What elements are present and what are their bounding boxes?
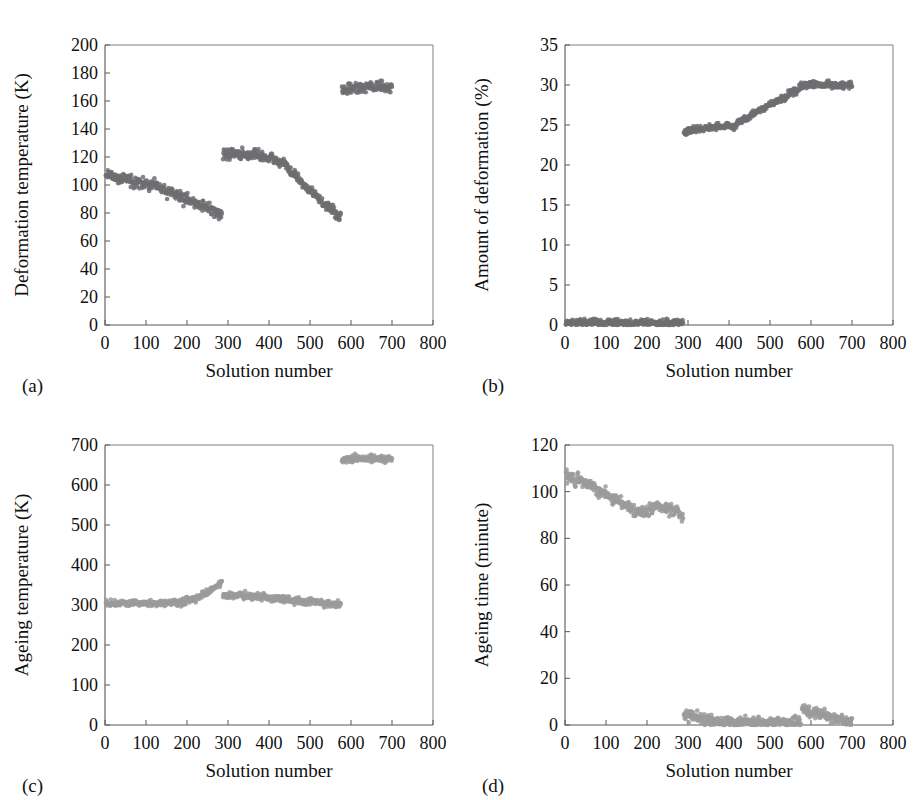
x-axis: 0100200300400500600700800Solution number — [101, 720, 447, 781]
x-tick-label: 600 — [338, 733, 365, 753]
y-tick-label: 0 — [549, 315, 558, 335]
y-tick-label: 40 — [80, 259, 98, 279]
data-series-3 — [340, 79, 395, 96]
y-axis: 020406080100120Ageing time (minute) — [471, 435, 570, 735]
x-tick-label: 200 — [174, 333, 201, 353]
plot-area: 05101520253035Amount of deformation (%)0… — [460, 0, 920, 400]
data-series-1 — [564, 467, 686, 523]
y-tick-label: 200 — [71, 35, 98, 55]
y-tick-label: 40 — [540, 622, 558, 642]
x-tick-label: 600 — [798, 333, 825, 353]
x-tick-label: 700 — [379, 333, 406, 353]
x-axis: 0100200300400500600700800Solution number — [561, 720, 907, 781]
panel-tag: (c) — [22, 775, 43, 797]
data-points — [104, 79, 395, 223]
panel-a: 020406080100120140160180200Deformation t… — [0, 0, 460, 400]
x-tick-label: 500 — [757, 733, 784, 753]
x-tick-label: 800 — [420, 733, 447, 753]
data-series-3 — [340, 452, 395, 466]
x-tick-label: 400 — [256, 333, 283, 353]
data-points — [104, 452, 395, 610]
data-series-1 — [104, 168, 225, 222]
data-series-3 — [804, 78, 855, 91]
y-tick-label: 180 — [71, 63, 98, 83]
y-tick-label: 20 — [80, 287, 98, 307]
y-tick-label: 0 — [89, 715, 98, 735]
x-axis: 0100200300400500600700800Solution number — [561, 320, 907, 381]
y-axis-title: Deformation temperature (K) — [11, 73, 33, 297]
y-tick-label: 80 — [80, 203, 98, 223]
y-tick-label: 700 — [71, 435, 98, 455]
y-tick-label: 120 — [531, 435, 558, 455]
x-tick-label: 500 — [757, 333, 784, 353]
y-tick-label: 5 — [549, 275, 558, 295]
y-tick-label: 400 — [71, 555, 98, 575]
data-series-2 — [221, 589, 343, 610]
y-tick-label: 30 — [540, 75, 558, 95]
x-tick-label: 400 — [716, 333, 743, 353]
x-tick-label: 800 — [880, 733, 907, 753]
data-series-1 — [104, 579, 225, 609]
y-tick-label: 600 — [71, 475, 98, 495]
plot-area: 020406080100120140160180200Deformation t… — [0, 0, 460, 400]
y-tick-label: 200 — [71, 635, 98, 655]
x-tick-label: 300 — [675, 333, 702, 353]
x-axis-title: Solution number — [205, 760, 333, 781]
y-axis: 05101520253035Amount of deformation (%) — [471, 35, 570, 335]
y-tick-label: 100 — [531, 482, 558, 502]
panel-tag: (a) — [22, 375, 43, 397]
y-tick-label: 20 — [540, 668, 558, 688]
x-tick-label: 100 — [593, 333, 620, 353]
x-tick-label: 0 — [561, 733, 570, 753]
x-tick-label: 700 — [379, 733, 406, 753]
x-tick-label: 800 — [420, 333, 447, 353]
x-axis-title: Solution number — [665, 360, 793, 381]
y-tick-label: 80 — [540, 528, 558, 548]
data-series-3 — [800, 703, 855, 727]
x-tick-label: 100 — [593, 733, 620, 753]
plot-area: 020406080100120Ageing time (minute)01002… — [460, 400, 920, 800]
y-axis: 020406080100120140160180200Deformation t… — [11, 35, 110, 335]
x-tick-label: 0 — [561, 333, 570, 353]
plot-area: 0100200300400500600700Ageing temperature… — [0, 400, 460, 800]
plot-frame — [565, 445, 893, 725]
panel-b: 05101520253035Amount of deformation (%)0… — [460, 0, 920, 400]
x-axis-title: Solution number — [205, 360, 333, 381]
figure-four-panel-scatter: 020406080100120140160180200Deformation t… — [0, 0, 920, 800]
x-tick-label: 600 — [338, 333, 365, 353]
y-tick-label: 300 — [71, 595, 98, 615]
x-tick-label: 200 — [634, 733, 661, 753]
x-tick-label: 300 — [215, 333, 242, 353]
x-tick-label: 300 — [675, 733, 702, 753]
panel-tag: (b) — [482, 375, 504, 397]
x-tick-label: 300 — [215, 733, 242, 753]
y-tick-label: 100 — [71, 675, 98, 695]
y-axis-title: Ageing time (minute) — [471, 503, 493, 668]
y-tick-label: 0 — [549, 715, 558, 735]
y-tick-label: 20 — [540, 155, 558, 175]
x-tick-label: 700 — [839, 333, 866, 353]
data-series-2 — [221, 145, 343, 222]
y-tick-label: 10 — [540, 235, 558, 255]
y-tick-label: 15 — [540, 195, 558, 215]
data-series-2 — [682, 708, 803, 727]
y-tick-label: 25 — [540, 115, 558, 135]
y-tick-label: 120 — [71, 147, 98, 167]
y-tick-label: 35 — [540, 35, 558, 55]
y-tick-label: 140 — [71, 119, 98, 139]
x-tick-label: 0 — [101, 733, 110, 753]
x-tick-label: 500 — [297, 333, 324, 353]
panel-tag: (d) — [482, 775, 504, 797]
y-axis: 0100200300400500600700Ageing temperature… — [11, 435, 110, 735]
y-tick-label: 0 — [89, 315, 98, 335]
x-tick-label: 400 — [716, 733, 743, 753]
x-axis-title: Solution number — [665, 760, 793, 781]
y-tick-label: 500 — [71, 515, 98, 535]
x-axis: 0100200300400500600700800Solution number — [101, 320, 447, 381]
data-series-2 — [682, 80, 808, 137]
y-tick-label: 60 — [540, 575, 558, 595]
y-axis-title: Ageing temperature (K) — [11, 494, 33, 677]
y-axis-title: Amount of deformation (%) — [471, 78, 493, 292]
x-tick-label: 600 — [798, 733, 825, 753]
x-tick-label: 500 — [297, 733, 324, 753]
